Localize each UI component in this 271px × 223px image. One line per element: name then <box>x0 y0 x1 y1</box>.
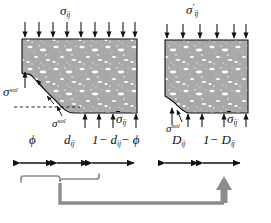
left-bottom-reaction-arrows <box>85 114 136 128</box>
left-sol-lower-label: σsol <box>52 118 66 129</box>
right-sol-leader-arrow <box>177 110 182 122</box>
left-sol-upper-label: σsol <box>3 85 18 98</box>
scale-right-label-D-ij: Dij <box>172 133 185 148</box>
right-block-body <box>165 40 248 113</box>
top-left-stress-label: σij <box>60 4 70 19</box>
bottom-left-bar-stress-label: σij <box>116 112 126 127</box>
scale-left-label-phi: ϕ <box>29 133 36 146</box>
scale-left-label-d-ij: dij <box>64 133 74 148</box>
scale-right-label-one-minus-D-ij: 1− Dij <box>203 133 235 148</box>
left-top-load-arrows <box>25 22 135 37</box>
bottom-right-bar-stress-label: σij <box>227 112 237 127</box>
right-top-load-arrows <box>167 24 246 38</box>
left-block-body <box>22 39 137 113</box>
mapping-brace <box>21 174 99 182</box>
scale-left-label-one-minus-d-phi: 1− dij− ϕ <box>92 133 140 148</box>
mapping-arrow <box>60 176 232 203</box>
top-right-stress-label: σ′ij <box>186 3 198 18</box>
